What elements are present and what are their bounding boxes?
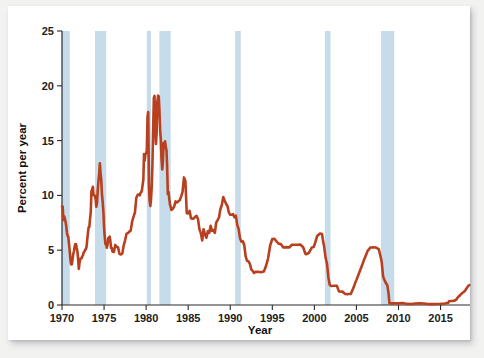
- series-line-federal-funds-rate: [62, 96, 469, 304]
- x-tick-label-2: 1980: [134, 312, 158, 324]
- line-chart: 0510152025 19701975198019851990199520002…: [0, 0, 484, 358]
- recession-band-4: [235, 31, 241, 305]
- y-tick-label-4: 20: [42, 80, 54, 92]
- x-tick-label-7: 2005: [344, 312, 368, 324]
- plot-area-wrapper: 0510152025 19701975198019851990199520002…: [0, 0, 484, 358]
- x-tick-label-8: 2010: [386, 312, 410, 324]
- x-axis-ticks-group: 1970197519801985199019952000200520102015: [50, 305, 453, 324]
- x-tick-label-0: 1970: [50, 312, 74, 324]
- recession-shading-group: [62, 31, 394, 305]
- y-tick-label-1: 5: [48, 244, 54, 256]
- y-tick-label-3: 15: [42, 135, 54, 147]
- x-tick-label-5: 1995: [260, 312, 284, 324]
- recession-band-0: [62, 31, 70, 305]
- y-tick-label-2: 10: [42, 189, 54, 201]
- y-tick-label-0: 0: [48, 299, 54, 311]
- chart-page: 0510152025 19701975198019851990199520002…: [0, 0, 484, 358]
- x-axis-title: Year: [248, 324, 273, 336]
- y-tick-label-5: 25: [42, 25, 54, 37]
- x-tick-label-1: 1975: [92, 312, 116, 324]
- x-tick-label-9: 2015: [428, 312, 452, 324]
- x-tick-label-4: 1990: [218, 312, 242, 324]
- y-axis-title: Percent per year: [16, 122, 28, 213]
- x-tick-label-6: 2000: [302, 312, 326, 324]
- x-tick-label-3: 1985: [176, 312, 200, 324]
- y-axis-ticks-group: 0510152025: [42, 25, 62, 311]
